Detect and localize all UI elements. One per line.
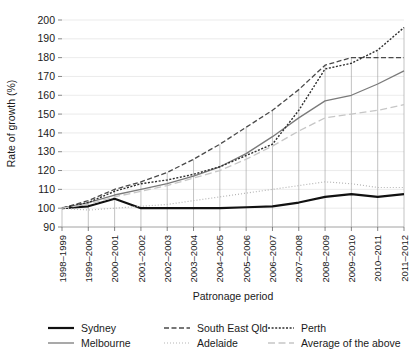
y-tick-label: 190 (37, 32, 55, 44)
series-line-average-of-the-above (62, 105, 404, 208)
y-tick-label: 140 (37, 127, 55, 139)
legend: SydneySouth East QldPerthMelbourneAdelai… (48, 322, 401, 349)
y-tick-label: 100 (37, 202, 55, 214)
x-tick-label: 2007–2008 (293, 235, 304, 283)
chart-container: 901001101201301401501601701801902001998–… (0, 0, 418, 358)
y-tick-label: 120 (37, 164, 55, 176)
legend-item-sydney: Sydney (48, 322, 117, 334)
y-tick-label: 160 (37, 89, 55, 101)
y-tick-label: 150 (37, 108, 55, 120)
y-tick-label: 170 (37, 70, 55, 82)
y-tick-label: 200 (37, 14, 55, 26)
x-tick-label: 2008–2009 (320, 235, 331, 283)
x-tick-labels: 1998–19991999–20002000–20012001–20022002… (57, 227, 410, 283)
legend-label: Adelaide (197, 337, 238, 349)
y-tick-label: 130 (37, 145, 55, 157)
series-group (62, 28, 404, 211)
x-tick-label: 2004–2005 (214, 235, 225, 283)
x-tick-label: 2003–2004 (188, 235, 199, 283)
legend-item-average-of-the-above: Average of the above (268, 337, 401, 349)
legend-item-south-east-qld: South East Qld (164, 322, 268, 334)
x-tick-label: 2001–2002 (136, 235, 147, 283)
x-tick-label: 2006–2007 (267, 235, 278, 283)
series-line-sydney (62, 194, 404, 208)
y-tick-label: 90 (43, 221, 55, 233)
y-tick-label: 180 (37, 51, 55, 63)
y-axis-title: Rate of growth (%) (5, 80, 17, 168)
line-chart: 901001101201301401501601701801902001998–… (0, 0, 418, 358)
y-tick-label: 110 (38, 183, 55, 195)
x-tick-label: 2011–2012 (399, 235, 410, 282)
legend-item-adelaide: Adelaide (164, 337, 238, 349)
x-tick-label: 2010–2011 (372, 235, 383, 282)
x-tick-label: 2009–2010 (346, 235, 357, 283)
legend-label: Average of the above (301, 337, 401, 349)
x-tick-label: 1998–1999 (57, 235, 68, 283)
x-tick-label: 2005–2006 (241, 235, 252, 283)
series-line-perth (62, 28, 404, 209)
series-line-melbourne (62, 71, 404, 208)
legend-label: Melbourne (81, 337, 131, 349)
x-tick-label: 1999–2000 (83, 235, 94, 283)
x-tick-label: 2000–2001 (109, 235, 120, 283)
x-tick-label: 2002–2003 (162, 235, 173, 283)
legend-label: South East Qld (197, 322, 268, 334)
legend-item-perth: Perth (268, 322, 326, 334)
legend-item-melbourne: Melbourne (48, 337, 131, 349)
y-gridlines: 90100110120130140150160170180190200 (37, 14, 404, 233)
x-axis-title: Patronage period (193, 290, 274, 302)
legend-label: Perth (301, 322, 326, 334)
legend-label: Sydney (81, 322, 117, 334)
